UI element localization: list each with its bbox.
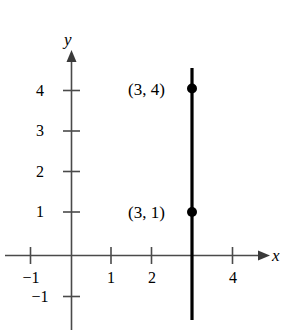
- x-axis: [5, 247, 270, 264]
- x-tick-label-4: 4: [224, 270, 242, 286]
- y-tick-label-3: 3: [31, 123, 49, 139]
- y-tick-label-2: 2: [31, 164, 49, 180]
- y-axis-label: y: [64, 31, 72, 48]
- y-tick-label--1: −1: [26, 289, 54, 305]
- data-point-3-1: [187, 207, 197, 217]
- y-tick-label-4: 4: [31, 83, 49, 99]
- y-axis-arrowhead: [67, 50, 77, 62]
- point-label-3-4: (3, 4): [128, 81, 165, 98]
- x-tick-label-1: 1: [102, 270, 120, 286]
- x-axis-label: x: [272, 247, 280, 264]
- y-axis: [63, 50, 80, 330]
- y-tick-label-1: 1: [31, 204, 49, 220]
- point-label-3-1: (3, 1): [128, 204, 165, 221]
- x-tick-label-2: 2: [143, 270, 161, 286]
- x-tick-label--1: −1: [17, 270, 45, 286]
- coordinate-plane-figure: y x 4 3 2 1 −1 −1 1 2 4 (3, 4) (3, 1): [0, 0, 289, 334]
- x-axis-arrowhead: [258, 251, 270, 261]
- data-point-3-4: [187, 84, 197, 94]
